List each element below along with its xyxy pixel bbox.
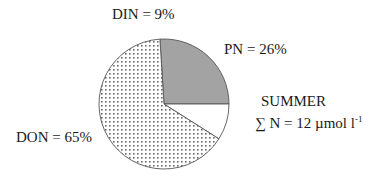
pie-slice-pn (160, 39, 229, 104)
pie-chart (0, 0, 382, 180)
total-text: ∑ N = 12 µmol l (255, 115, 355, 131)
label-din: DIN = 9% (112, 7, 175, 22)
label-don: DON = 65% (16, 130, 92, 145)
label-pn: PN = 26% (224, 42, 287, 57)
total-nitrogen: ∑ N = 12 µmol l-1 (255, 116, 362, 133)
total-exponent: -1 (355, 114, 363, 124)
season-title: SUMMER (261, 94, 326, 109)
